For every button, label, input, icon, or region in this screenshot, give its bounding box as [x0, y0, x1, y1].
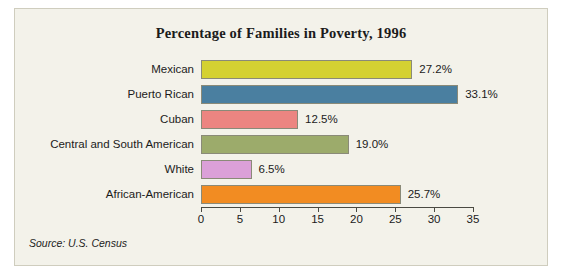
x-axis-tick — [434, 207, 435, 212]
chart-figure: Percentage of Families in Poverty, 1996 … — [14, 8, 548, 266]
x-axis-tick-label: 10 — [264, 213, 294, 225]
category-label-puerto-rican: Puerto Rican — [128, 82, 194, 107]
bar-value-mexican: 27.2% — [419, 57, 452, 82]
bar-central-and-south-american[interactable] — [201, 135, 349, 154]
x-axis-tick-label: 5 — [225, 213, 255, 225]
chart-title: Percentage of Families in Poverty, 1996 — [15, 25, 547, 42]
bar-value-central-and-south-american: 19.0% — [356, 132, 389, 157]
bar-white[interactable] — [201, 160, 252, 179]
bar-value-african-american: 25.7% — [408, 182, 441, 207]
bar-african-american[interactable] — [201, 185, 401, 204]
x-axis-tick — [201, 207, 202, 212]
bar-row: Cuban 12.5% — [201, 107, 473, 132]
x-axis-tick-label: 35 — [458, 213, 488, 225]
bar-cuban[interactable] — [201, 110, 298, 129]
bar-row: Central and South American 19.0% — [201, 132, 473, 157]
x-axis-tick — [279, 207, 280, 212]
x-axis-tick-label: 0 — [186, 213, 216, 225]
category-label-african-american: African-American — [106, 182, 194, 207]
bar-row: Puerto Rican 33.1% — [201, 82, 473, 107]
x-axis-tick-label: 25 — [380, 213, 410, 225]
bar-mexican[interactable] — [201, 60, 412, 79]
x-axis-tick — [240, 207, 241, 212]
category-label-mexican: Mexican — [151, 57, 194, 82]
x-axis-tick-label: 30 — [419, 213, 449, 225]
x-axis-tick — [395, 207, 396, 212]
x-axis-tick — [356, 207, 357, 212]
plot-area: Mexican 27.2% Puerto Rican 33.1% Cuban 1… — [201, 57, 473, 207]
x-axis-line — [201, 207, 474, 208]
source-note: Source: U.S. Census — [29, 237, 127, 249]
x-axis-tick — [318, 207, 319, 212]
category-label-central-and-south-american: Central and South American — [50, 132, 194, 157]
bar-row: White 6.5% — [201, 157, 473, 182]
bar-value-puerto-rican: 33.1% — [465, 82, 498, 107]
bar-value-cuban: 12.5% — [305, 107, 338, 132]
bar-row: African-American 25.7% — [201, 182, 473, 207]
x-axis-tick-label: 20 — [341, 213, 371, 225]
category-label-white: White — [165, 157, 194, 182]
bar-puerto-rican[interactable] — [201, 85, 458, 104]
x-axis-tick-label: 15 — [303, 213, 333, 225]
category-label-cuban: Cuban — [160, 107, 194, 132]
bar-row: Mexican 27.2% — [201, 57, 473, 82]
bar-value-white: 6.5% — [259, 157, 285, 182]
x-axis-tick — [473, 207, 474, 212]
